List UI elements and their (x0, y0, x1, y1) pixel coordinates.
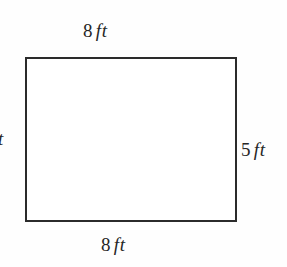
dimension-label-left-unit: ft (0, 128, 4, 149)
dimension-label-right-number: 5 (241, 139, 251, 160)
dimension-label-bottom: 8ft (101, 235, 126, 254)
dimension-label-bottom-number: 8 (101, 234, 111, 255)
rectangle-shape (25, 57, 237, 222)
dimension-label-left: ft (0, 129, 4, 148)
dimension-label-bottom-unit: ft (114, 234, 126, 255)
dimension-label-top: 8ft (83, 21, 108, 40)
dimension-label-top-unit: ft (96, 20, 108, 41)
rectangle-dimension-figure: f 8ft 8ft 5ft ft (0, 0, 287, 267)
dimension-label-top-number: 8 (83, 20, 93, 41)
dimension-label-right: 5ft (241, 140, 266, 159)
dimension-label-right-unit: ft (254, 139, 266, 160)
